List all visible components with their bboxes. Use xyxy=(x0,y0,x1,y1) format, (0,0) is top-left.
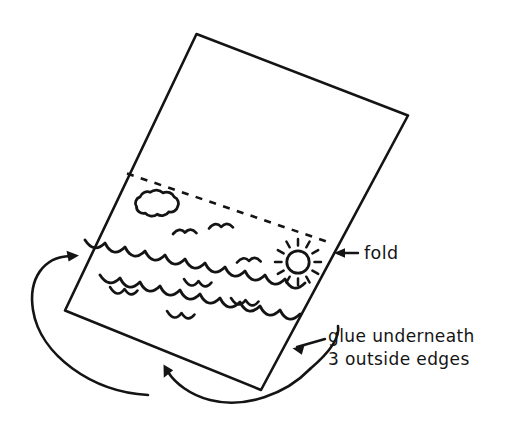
bird-icon xyxy=(237,258,261,263)
sun-icon xyxy=(275,239,321,285)
fold-callout: fold xyxy=(334,243,398,263)
glue-label-line1: glue underneath xyxy=(328,326,475,346)
wave-icon xyxy=(167,311,195,318)
glue-label-line2: 3 outside edges xyxy=(328,349,470,369)
flip-arrow-left xyxy=(32,251,148,395)
diagram-canvas: Folded paper seascape card xyxy=(0,0,531,432)
cloud-outline xyxy=(135,190,178,216)
glue-callout: glue underneath 3 outside edges xyxy=(293,326,475,369)
sun-disc xyxy=(287,251,309,273)
wave-icon xyxy=(110,287,138,294)
wave-icon xyxy=(184,279,212,286)
glue-callout-line xyxy=(297,339,325,347)
sea-waves xyxy=(85,240,305,319)
arrow-left-icon xyxy=(293,346,305,355)
curved-arrow-icon xyxy=(32,256,148,395)
bird-icon xyxy=(173,230,197,234)
wave-icon xyxy=(231,298,259,305)
arrowhead xyxy=(67,251,80,262)
cloud-icon xyxy=(135,190,178,216)
flip-arrow-bottom xyxy=(164,365,311,403)
seascape-drawing xyxy=(85,190,321,319)
bird-icon xyxy=(209,224,233,229)
fold-diagram-svg: Folded paper seascape card xyxy=(0,0,531,432)
bird-flock xyxy=(173,224,261,263)
wave-squiggles xyxy=(110,279,259,318)
fold-label: fold xyxy=(364,243,398,263)
curved-arrow-icon xyxy=(168,369,310,403)
